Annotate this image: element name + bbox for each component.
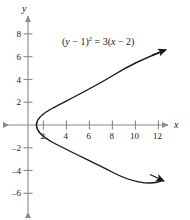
x-axis-label: x xyxy=(174,120,178,130)
parabola-curve xyxy=(36,50,166,183)
x-tick-label-12: 12 xyxy=(153,132,162,141)
y-tick-label-neg6: –6 xyxy=(8,189,21,198)
parabola-figure: y x 8 6 4 2 –2 –4 –6 2 4 6 8 10 12 (y − … xyxy=(0,0,190,220)
y-tick-label-6: 6 xyxy=(13,53,21,62)
x-axis xyxy=(9,121,168,130)
plot-canvas xyxy=(0,0,190,220)
x-tick-label-8: 8 xyxy=(110,132,115,141)
equation-tail: − 2) xyxy=(115,36,134,47)
equation-minus-one: − 1) xyxy=(70,36,89,47)
y-tick-label-2: 2 xyxy=(13,98,21,107)
y-tick-label-neg4: –4 xyxy=(8,167,21,176)
y-axis xyxy=(24,16,33,212)
y-tick-label-4: 4 xyxy=(13,76,21,85)
y-tick-label-neg2: –2 xyxy=(8,144,21,153)
equation-equals: = 3( xyxy=(92,36,111,47)
equation-annotation: (y − 1)2 = 3(x − 2) xyxy=(62,36,134,47)
y-axis-label: y xyxy=(22,4,26,14)
x-tick-label-2: 2 xyxy=(41,132,46,141)
x-tick-label-10: 10 xyxy=(130,132,139,141)
x-tick-label-6: 6 xyxy=(87,132,92,141)
y-tick-label-8: 8 xyxy=(13,30,21,39)
x-tick-label-4: 4 xyxy=(64,132,69,141)
